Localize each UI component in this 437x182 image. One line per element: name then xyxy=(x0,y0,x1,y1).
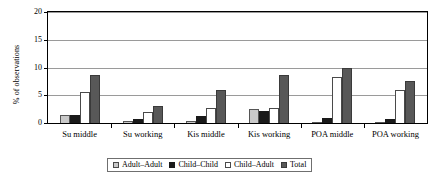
bar xyxy=(143,112,153,123)
x-axis-label: Su middle xyxy=(48,129,111,139)
bar xyxy=(216,90,226,123)
bar xyxy=(322,118,332,123)
bar xyxy=(385,119,395,123)
bar-chart: % of observations 05101520 Su middleSu w… xyxy=(0,0,437,182)
bar xyxy=(206,108,216,123)
legend-swatch-icon xyxy=(113,162,119,168)
y-tick-label: 20 xyxy=(20,8,42,16)
x-tick-mark xyxy=(301,124,302,128)
y-tick-label: 15 xyxy=(20,36,42,44)
bar-groups xyxy=(48,12,427,123)
bar-group xyxy=(111,12,174,123)
chart-legend: Adult–AdultChild–ChildChild–AdultTotal xyxy=(107,158,312,172)
legend-label: Total xyxy=(290,161,306,169)
bar xyxy=(133,119,143,123)
bar-group xyxy=(238,12,301,123)
bar xyxy=(342,68,352,124)
x-axis-labels: Su middleSu workingKis middleKis working… xyxy=(48,129,427,139)
legend-label: Child–Child xyxy=(178,161,218,169)
bar xyxy=(196,116,206,123)
legend-label: Child–Adult xyxy=(234,161,274,169)
bar xyxy=(375,122,385,123)
bar xyxy=(70,115,80,123)
x-tick-mark xyxy=(238,124,239,128)
bar xyxy=(269,108,279,123)
legend-item: Child–Adult xyxy=(225,161,274,169)
x-tick-mark xyxy=(174,124,175,128)
legend-item: Adult–Adult xyxy=(113,161,162,169)
x-axis-label: POA middle xyxy=(301,129,364,139)
bar xyxy=(153,106,163,123)
legend-swatch-icon xyxy=(169,162,175,168)
bar-group xyxy=(301,12,364,123)
bar xyxy=(123,121,133,123)
y-tick-label: 10 xyxy=(20,64,42,72)
bar xyxy=(80,92,90,123)
bar-group xyxy=(364,12,427,123)
x-tick-mark xyxy=(111,124,112,128)
legend-swatch-icon xyxy=(281,162,287,168)
legend-item: Child–Child xyxy=(169,161,218,169)
x-axis-ticks xyxy=(47,124,428,128)
legend-swatch-icon xyxy=(225,162,231,168)
bar xyxy=(395,90,405,123)
bar xyxy=(405,81,415,123)
bar xyxy=(249,109,259,123)
x-axis-label: POA working xyxy=(364,129,427,139)
bar-group xyxy=(48,12,111,123)
y-tick-label: 0 xyxy=(20,119,42,127)
x-tick-mark xyxy=(364,124,365,128)
y-tick-label: 5 xyxy=(20,91,42,99)
y-axis-title: % of observations xyxy=(12,15,21,135)
bar xyxy=(312,122,322,123)
legend-label: Adult–Adult xyxy=(122,161,162,169)
bar xyxy=(186,121,196,123)
bar-group xyxy=(174,12,237,123)
bar xyxy=(279,75,289,123)
x-axis-label: Kis middle xyxy=(174,129,237,139)
bar xyxy=(332,77,342,123)
legend-item: Total xyxy=(281,161,306,169)
bar xyxy=(259,111,269,123)
bar xyxy=(90,75,100,123)
x-axis-label: Kis working xyxy=(238,129,301,139)
bar xyxy=(60,115,70,123)
x-axis-label: Su working xyxy=(111,129,174,139)
